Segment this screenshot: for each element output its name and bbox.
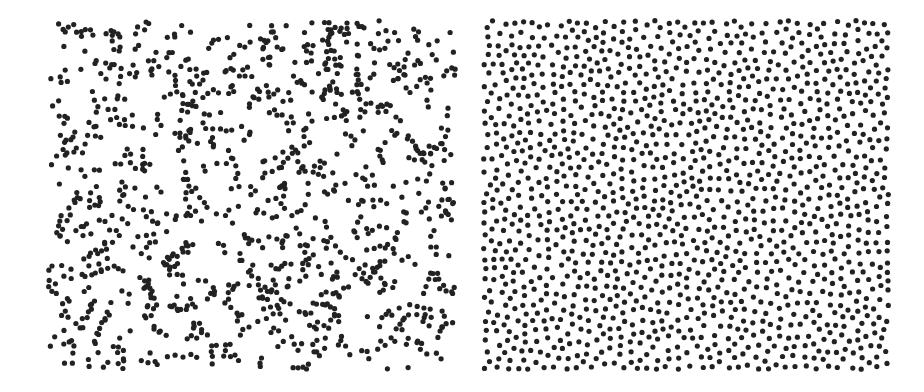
dot [525,94,530,99]
dot [853,80,858,85]
dot [266,94,271,99]
dot [482,209,487,214]
dot [310,342,315,347]
dot [862,20,867,25]
dot [141,207,146,212]
dot [271,278,276,283]
dot [569,199,574,204]
dot [95,104,100,109]
dot [604,227,609,232]
dot [88,302,93,307]
dot [593,232,598,237]
dot [792,225,797,230]
dot [306,192,311,197]
dot [846,23,851,28]
dot [561,64,566,69]
dot [705,68,710,73]
dot [605,83,610,88]
dot [141,286,146,291]
dot [626,45,631,50]
dot [536,180,541,185]
dot [854,299,859,304]
dot [850,366,855,371]
dot [856,238,861,243]
dot [202,200,207,205]
dot [561,173,566,178]
dot [289,213,294,218]
dot [721,269,726,274]
dot [561,97,566,102]
dot [281,339,286,344]
dot [677,272,682,277]
dot [631,90,636,95]
dot [509,67,514,72]
dot [739,40,744,45]
dot [164,55,169,60]
dot [392,251,397,256]
dot [179,23,184,28]
dot [142,27,147,32]
dot [248,40,253,45]
dot [584,284,589,289]
dot [350,90,355,95]
dot [863,165,868,170]
dot [223,348,228,353]
dot [341,286,346,291]
dot [437,286,442,291]
dot [357,97,362,102]
dot [689,121,694,126]
dot [230,221,235,226]
dot [870,286,875,291]
dot [662,254,667,259]
dot [639,285,644,290]
dot [752,309,757,314]
dot [687,267,692,272]
dot [872,127,877,132]
dot [815,116,820,121]
dot [828,204,833,209]
dot [102,241,107,246]
dot [757,91,762,96]
dot [284,120,289,125]
dot [86,357,91,362]
dot [489,115,494,120]
dot [435,335,440,340]
dot [256,238,261,243]
dot [148,350,153,355]
dot [658,25,663,30]
dot [256,282,261,287]
dot [885,67,890,72]
dot [523,339,528,344]
dot [712,111,717,116]
dot [672,151,677,156]
dot [690,149,695,154]
dot [885,125,890,130]
dot [732,60,737,65]
dot [306,262,311,267]
dot [87,198,92,203]
dot [618,116,623,121]
dot [516,93,521,98]
dot [529,196,534,201]
dot [567,155,572,160]
dot [300,164,305,169]
dot [749,125,754,130]
dot [621,365,626,370]
dot [346,284,351,289]
dot [586,318,591,323]
dot [175,308,180,313]
dot [506,173,511,178]
dot [247,101,252,106]
dot [600,293,605,298]
dot [759,177,764,182]
dot [512,212,517,217]
dot [151,231,156,236]
dot [491,61,496,66]
dot [92,339,97,344]
dot [884,76,889,81]
dot [349,143,354,148]
dot [285,234,290,239]
dot [543,326,548,331]
dot [567,19,572,24]
dot [652,198,657,203]
